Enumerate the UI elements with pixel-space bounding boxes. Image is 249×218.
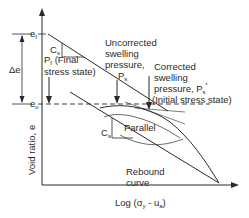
corrected-label-line2: swelling	[154, 72, 188, 83]
parallel-arc-lower	[120, 135, 183, 145]
ps-arrow	[114, 80, 120, 104]
pf-label-line1: Pf (Final	[44, 54, 78, 66]
cs-bottom-label: Cs	[101, 127, 111, 139]
pf-arrow	[46, 77, 52, 104]
uncorrected-label-line3: pressure,	[105, 59, 145, 70]
eo-label: eo	[30, 98, 39, 110]
tangent-line-1	[125, 102, 185, 124]
corrected-label-line3: pressure, Ps'	[154, 80, 208, 95]
corrected-label-line4: (Initial stress state)	[152, 94, 232, 105]
parallel-label: Parallel	[124, 122, 156, 133]
y-axis	[39, 8, 45, 185]
tangent-line-2	[135, 108, 185, 112]
delta-e-label: Δe	[9, 64, 21, 75]
pf-label-line2: stress state)	[44, 66, 96, 77]
ef-label: ef	[30, 28, 37, 40]
rebound-label-line1: Rebound	[126, 166, 165, 177]
diagram-canvas: ef eo Δe Cs Pf (Final stress state) Unco…	[0, 0, 249, 218]
rebound-label-line2: curve	[126, 177, 149, 188]
x-axis-label: Log (σy - ua)	[115, 197, 166, 209]
uncorrected-ps-label: Ps	[118, 70, 127, 82]
uncorrected-label-line2: swelling	[105, 48, 139, 59]
y-axis-label: Void ratio, e	[26, 125, 37, 175]
uncorrected-label-line1: Uncorrected	[105, 37, 157, 48]
corrected-label-line1: Corrected	[154, 61, 196, 72]
